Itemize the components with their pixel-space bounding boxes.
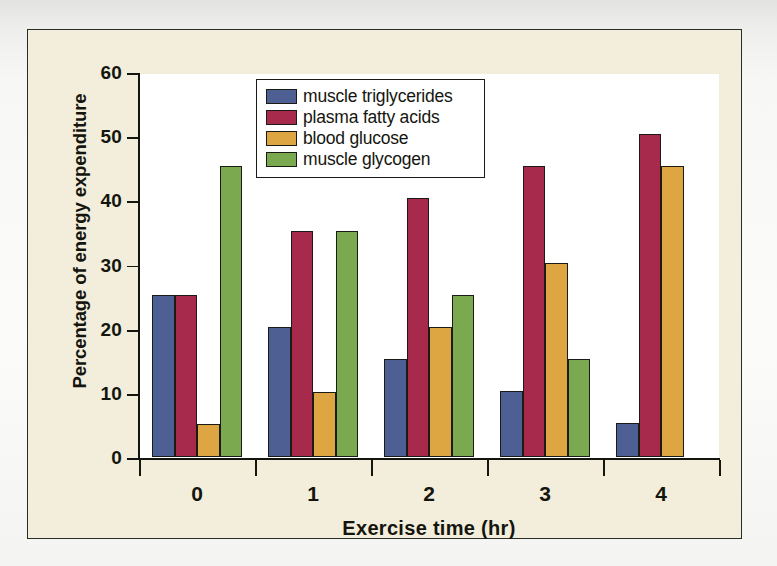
legend-swatch-icon xyxy=(266,110,297,125)
bar xyxy=(568,359,591,457)
bar xyxy=(523,166,546,457)
figure-panel: 0102030405060 01234 Percentage of energy… xyxy=(27,29,742,539)
y-axis-tick xyxy=(127,137,139,139)
y-axis-tick xyxy=(127,266,139,268)
legend-label: blood glucose xyxy=(303,128,408,149)
legend-item: muscle triglycerides xyxy=(266,86,475,107)
x-axis-tick xyxy=(603,460,605,476)
y-axis-tick xyxy=(127,458,139,460)
y-axis-tick xyxy=(127,394,139,396)
bar xyxy=(639,134,662,457)
x-axis-tick xyxy=(139,460,141,476)
x-axis-tick-label: 2 xyxy=(399,482,459,506)
bar xyxy=(452,295,475,457)
bar xyxy=(197,424,220,457)
bar xyxy=(291,231,314,457)
bar xyxy=(500,391,523,457)
bar xyxy=(336,231,359,458)
y-axis-tick xyxy=(127,330,139,332)
x-axis-tick xyxy=(371,460,373,476)
chart-legend: muscle triglyceridesplasma fatty acidsbl… xyxy=(256,79,485,178)
bar xyxy=(545,263,568,457)
x-axis-tick xyxy=(255,460,257,476)
bar xyxy=(616,423,639,457)
bar xyxy=(152,295,175,457)
legend-swatch-icon xyxy=(266,89,297,104)
x-axis-line xyxy=(138,458,720,460)
x-axis-tick xyxy=(719,460,721,476)
y-axis-title: Percentage of energy expenditure xyxy=(69,41,91,441)
legend-swatch-icon xyxy=(266,131,297,146)
legend-swatch-icon xyxy=(266,152,297,167)
x-axis-tick-label: 1 xyxy=(283,482,343,506)
bar xyxy=(220,166,243,457)
legend-item: plasma fatty acids xyxy=(266,107,475,128)
y-axis-tick xyxy=(127,73,139,75)
bar xyxy=(268,327,291,457)
legend-item: blood glucose xyxy=(266,128,475,149)
legend-label: muscle glycogen xyxy=(303,149,430,170)
x-axis-tick-label: 0 xyxy=(167,482,227,506)
bar xyxy=(175,295,198,457)
bar xyxy=(429,327,452,457)
bar xyxy=(384,359,407,457)
y-axis-tick xyxy=(127,201,139,203)
x-axis-tick xyxy=(487,460,489,476)
x-axis-title: Exercise time (hr) xyxy=(139,517,719,540)
x-axis-tick-label: 3 xyxy=(515,482,575,506)
legend-label: plasma fatty acids xyxy=(303,107,439,128)
x-axis-tick-label: 4 xyxy=(631,482,691,506)
bar xyxy=(661,166,684,457)
legend-label: muscle triglycerides xyxy=(303,86,453,107)
bar xyxy=(407,198,430,457)
bar xyxy=(313,392,336,457)
legend-item: muscle glycogen xyxy=(266,149,475,170)
y-axis-tick-label: 0 xyxy=(56,447,122,469)
